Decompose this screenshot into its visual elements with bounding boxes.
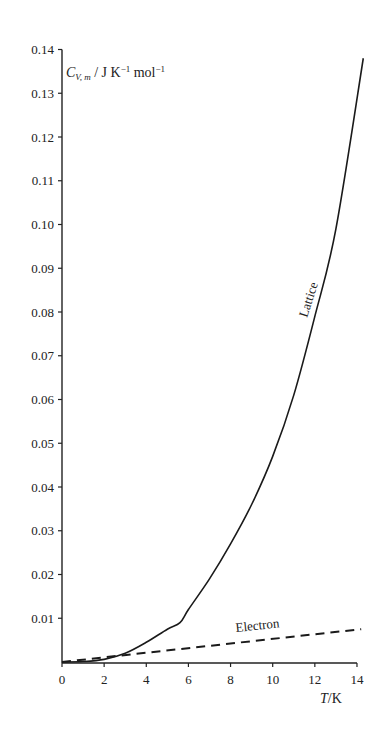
y-tick-label: 0.14 [31, 42, 54, 57]
x-axis-label: T/K [320, 691, 342, 706]
y-tick-label: 0.08 [31, 305, 54, 320]
lattice-label: Lattice [296, 280, 321, 319]
y-tick-label: 0.01 [31, 611, 54, 626]
y-tick-label: 0.13 [31, 86, 54, 101]
y-tick-label: 0.02 [31, 567, 54, 582]
series-group [62, 58, 363, 662]
electron-curve [62, 629, 361, 662]
y-tick-label: 0.07 [31, 348, 54, 363]
y-tick-label: 0.03 [31, 523, 54, 538]
heat-capacity-chart: 0.010.020.030.040.050.060.070.080.090.10… [0, 0, 391, 730]
y-tick-label: 0.04 [31, 480, 54, 495]
x-tick-label: 12 [308, 672, 321, 687]
y-tick-label: 0.09 [31, 261, 54, 276]
y-tick-label: 0.11 [32, 173, 54, 188]
y-tick-label: 0.12 [31, 130, 54, 145]
x-axis: 02468101214 [59, 663, 364, 687]
x-tick-label: 4 [143, 672, 150, 687]
x-tick-label: 2 [101, 672, 108, 687]
x-tick-label: 14 [350, 672, 364, 687]
y-tick-label: 0.06 [31, 392, 54, 407]
electron-label: Electron [235, 615, 281, 635]
x-tick-label: 0 [59, 672, 66, 687]
x-tick-label: 6 [185, 672, 192, 687]
lattice-curve [62, 58, 363, 662]
y-tick-label: 0.05 [31, 436, 54, 451]
y-tick-label: 0.10 [31, 217, 54, 232]
x-tick-label: 8 [227, 672, 234, 687]
y-axis: 0.010.020.030.040.050.060.070.080.090.10… [31, 42, 62, 663]
y-axis-label: CV, m / J K−1 mol−1 [66, 64, 165, 82]
x-tick-label: 10 [266, 672, 279, 687]
